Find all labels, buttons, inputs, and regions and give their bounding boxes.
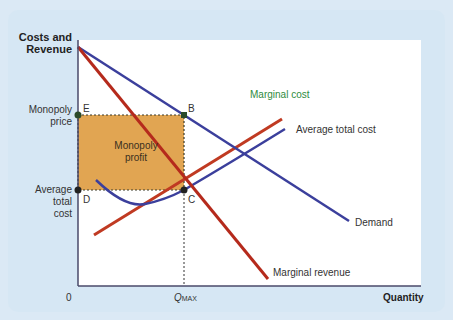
point-d — [75, 187, 82, 194]
y-axis-title: Costs andRevenue — [10, 31, 72, 55]
point-b-label: B — [188, 103, 195, 115]
monopoly-profit-label: Monopolyprofit — [108, 140, 164, 164]
x-axis-title: Quantity — [383, 292, 424, 304]
monopoly-price-label: Monopolyprice — [10, 104, 72, 128]
average-total-cost-label: Averagetotalcost — [10, 184, 72, 220]
point-c-label: C — [188, 194, 195, 206]
point-d-label: D — [83, 194, 90, 206]
point-b — [181, 112, 187, 118]
point-c — [181, 187, 188, 194]
point-e — [75, 112, 82, 119]
marginal-cost-label: Marginal cost — [250, 89, 309, 101]
demand-label: Demand — [355, 217, 393, 229]
qmax-label: QMAX — [174, 292, 197, 305]
marginal-revenue-label: Marginal revenue — [273, 267, 350, 279]
point-e-label: E — [83, 103, 90, 115]
origin-label: 0 — [66, 292, 72, 304]
average-total-cost-curve-label: Average total cost — [296, 124, 376, 136]
